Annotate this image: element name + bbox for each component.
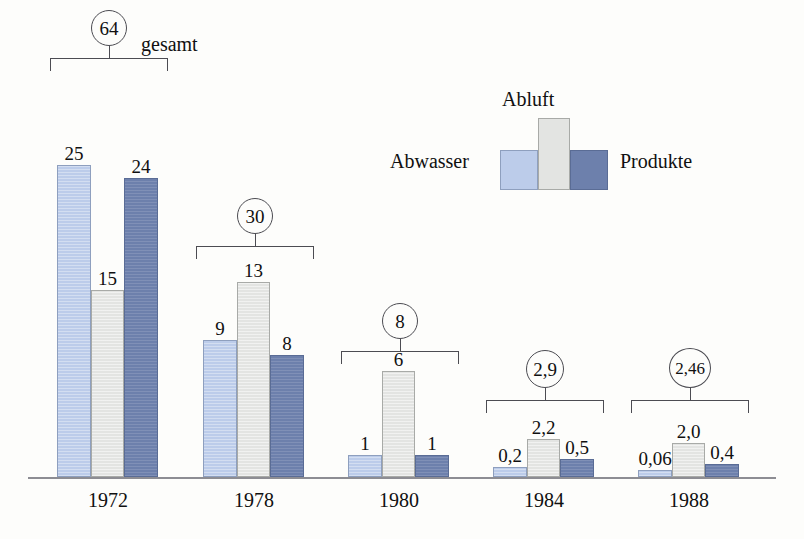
bar-group-bars: 25 15 24 <box>57 165 158 477</box>
total-bracket-1978: 30 <box>196 246 314 260</box>
x-tick-label-1980: 1980 <box>379 488 419 512</box>
bracket-tick-left <box>631 400 632 413</box>
bar-abwasser-1972[interactable]: 25 <box>57 165 91 477</box>
bar-value-label: 8 <box>282 334 292 354</box>
bar-value-label: 24 <box>132 157 151 177</box>
chart-legend: Abluft Abwasser Produkte <box>390 88 720 198</box>
x-tick-label-1972: 1972 <box>88 488 128 512</box>
bar-value-label: 6 <box>394 350 404 370</box>
bracket-line <box>50 58 168 59</box>
total-bracket-1972: 64 <box>50 58 168 72</box>
bar-produkte-1978[interactable]: 8 <box>270 355 304 477</box>
bar-abluft-1972[interactable]: 15 <box>91 290 124 477</box>
bar-group-bars: 9 13 8 <box>203 282 304 477</box>
bar-group-bars: 0,06 2,0 0,4 <box>638 443 739 477</box>
gesamt-label: gesamt <box>141 33 198 55</box>
total-badge-1984: 2,9 <box>526 350 564 388</box>
bracket-tick-left <box>196 246 197 259</box>
bracket-tick-left <box>341 351 342 364</box>
bar-produkte-1984[interactable]: 0,5 <box>560 459 594 477</box>
bar-produkte-1972[interactable]: 24 <box>124 178 158 477</box>
bar-value-label: 1 <box>360 434 370 454</box>
bar-abwasser-1988[interactable]: 0,06 <box>638 470 672 477</box>
bracket-tick-right <box>458 351 459 364</box>
bracket-tick-right <box>167 58 168 71</box>
bar-produkte-1988[interactable]: 0,4 <box>705 464 739 477</box>
bar-value-label: 1 <box>427 434 437 454</box>
bracket-line <box>196 246 314 247</box>
bar-value-label: 0,2 <box>498 446 522 466</box>
bracket-line <box>486 400 604 401</box>
bar-value-label: 0,06 <box>638 449 671 469</box>
total-badge-1972: 64 <box>91 10 127 46</box>
legend-swatch-abwasser <box>500 150 538 190</box>
bracket-tick-right <box>313 246 314 259</box>
x-tick-label-1978: 1978 <box>234 488 274 512</box>
legend-label-abwasser: Abwasser <box>390 150 469 172</box>
total-badge-1980: 8 <box>382 303 418 339</box>
x-tick-label-1984: 1984 <box>524 488 564 512</box>
x-axis-baseline <box>28 477 776 479</box>
total-bracket-1984: 2,9 <box>486 400 604 414</box>
legend-label-abluft: Abluft <box>502 88 554 110</box>
bar-abwasser-1980[interactable]: 1 <box>348 455 382 477</box>
chart-canvas: 64 gesamt 25 15 24 1972 30 9 1 <box>0 0 804 539</box>
legend-swatch-abluft <box>538 118 570 190</box>
bar-value-label: 9 <box>215 319 225 339</box>
bar-abluft-1980[interactable]: 6 <box>382 371 415 477</box>
bar-value-label: 25 <box>65 144 84 164</box>
legend-swatch-produkte <box>570 150 608 190</box>
bar-value-label: 0,4 <box>710 443 734 463</box>
bracket-tick-left <box>486 400 487 413</box>
bar-produkte-1980[interactable]: 1 <box>415 455 449 477</box>
bar-abwasser-1984[interactable]: 0,2 <box>493 467 527 477</box>
total-badge-1988: 2,46 <box>669 348 711 388</box>
bar-value-label: 2,2 <box>532 418 556 438</box>
bar-abluft-1978[interactable]: 13 <box>237 282 270 477</box>
legend-label-produkte: Produkte <box>620 150 692 172</box>
bracket-tick-right <box>748 400 749 413</box>
bracket-tick-right <box>603 400 604 413</box>
bar-abwasser-1978[interactable]: 9 <box>203 340 237 477</box>
bar-abluft-1988[interactable]: 2,0 <box>672 443 705 477</box>
bracket-line <box>631 400 749 401</box>
bar-value-label: 15 <box>98 269 117 289</box>
x-tick-label-1988: 1988 <box>669 488 709 512</box>
bar-group-bars: 0,2 2,2 0,5 <box>493 439 594 477</box>
bar-value-label: 0,5 <box>565 438 589 458</box>
total-badge-1978: 30 <box>237 198 273 234</box>
bar-value-label: 2,0 <box>677 422 701 442</box>
bar-group-bars: 1 6 1 <box>348 371 449 477</box>
bar-abluft-1984[interactable]: 2,2 <box>527 439 560 477</box>
total-bracket-1988: 2,46 <box>631 400 749 414</box>
bar-value-label: 13 <box>244 261 263 281</box>
bracket-tick-left <box>50 58 51 71</box>
legend-swatch-group <box>500 118 608 190</box>
